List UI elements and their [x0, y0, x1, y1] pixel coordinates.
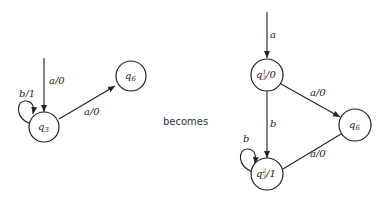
edge-label-start-q3: a/0 [49, 75, 65, 86]
node-q3: q3 [29, 112, 59, 142]
edge-label-q3-q6: a/0 [84, 106, 100, 117]
node-q3-1: q13/0 [251, 59, 283, 91]
becomes-label: becomes [163, 116, 208, 127]
node-q6: q6 [116, 61, 146, 91]
edge-label-loop-q3: b/1 [19, 88, 35, 99]
edge-label-loop-q3-2: b [243, 133, 249, 144]
right-machine: a b b a/0 a/0 q13/0 q23/1 q6 [240, 12, 371, 190]
edge-label-start-q3-1: a [270, 29, 276, 40]
svg-text:q13/0: q13/0 [256, 68, 276, 81]
edge-label-q3-1-q3-2: b [270, 118, 276, 129]
left-machine: a/0 b/1 a/0 q3 q6 [18, 58, 146, 142]
svg-text:q23/1: q23/1 [256, 167, 276, 180]
node-q3-2: q23/1 [251, 158, 283, 190]
edge-label-q6-q3-2: a/0 [310, 148, 326, 159]
node-q6-right: q6 [339, 109, 371, 141]
edge-label-q3-1-q6: a/0 [310, 87, 326, 98]
diagram-canvas: a/0 b/1 a/0 q3 q6 becomes a b b a/0 a/0 … [0, 0, 383, 200]
